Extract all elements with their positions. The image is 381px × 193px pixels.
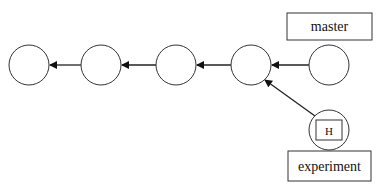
commit-node-5: [309, 45, 349, 85]
commit-node-2: [81, 45, 121, 85]
head-pointer-label: H: [325, 125, 333, 137]
edge-c6-c4: [265, 80, 315, 116]
master-branch-label: master: [311, 19, 349, 34]
commit-node-1: [9, 45, 49, 85]
commit-node-3: [156, 45, 196, 85]
git-branch-diagram: master H experiment: [0, 0, 381, 193]
commit-node-4: [231, 45, 271, 85]
experiment-branch-label: experiment: [298, 159, 361, 174]
